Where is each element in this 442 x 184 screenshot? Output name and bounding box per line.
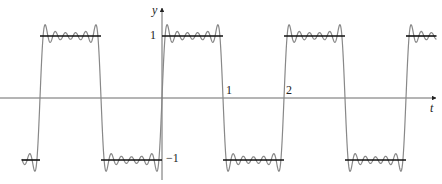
x-tick-2: 2 — [286, 83, 292, 97]
x-tick-1: 1 — [226, 83, 232, 97]
axes — [0, 8, 436, 180]
y-tick-neg1: −1 — [166, 151, 179, 165]
axis-labels: y t 1 2 1 −1 — [150, 3, 434, 165]
square-wave-chart: y t 1 2 1 −1 — [0, 0, 442, 184]
y-axis-label: y — [151, 3, 158, 17]
x-axis-label: t — [430, 101, 434, 115]
y-tick-1: 1 — [150, 28, 156, 42]
